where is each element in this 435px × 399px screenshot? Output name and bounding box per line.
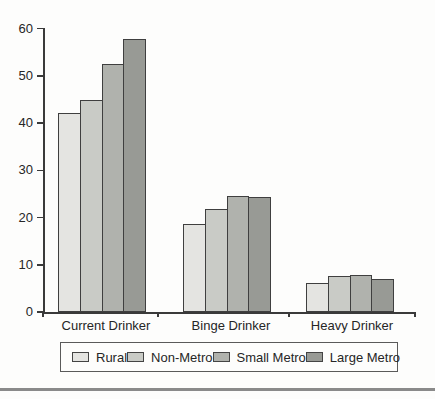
y-axis-line (43, 28, 45, 312)
category-label-current-drinker: Current Drinker (46, 318, 166, 333)
x-tick-mark (414, 312, 416, 317)
y-tick-mark (37, 264, 43, 266)
y-tick-mark (37, 122, 43, 124)
legend-item-non-metro: Non-Metro (127, 350, 212, 365)
legend-label: Large Metro (330, 350, 400, 365)
bar-rural-heavy-drinker (306, 283, 329, 312)
legend-swatch-icon (72, 352, 89, 362)
y-tick-mark (37, 28, 43, 30)
y-tick-label: 50 (3, 69, 33, 83)
bar-large-metro-binge-drinker (248, 197, 271, 312)
figure-page: 0102030405060 Current DrinkerBinge Drink… (0, 0, 435, 399)
legend-label: Non-Metro (151, 350, 212, 365)
bar-rural-current-drinker (58, 113, 81, 312)
grouped-bar-chart: 0102030405060 Current DrinkerBinge Drink… (0, 0, 435, 399)
y-tick-mark (37, 75, 43, 77)
y-tick-label: 40 (3, 116, 33, 130)
legend-swatch-icon (127, 352, 144, 362)
x-tick-mark (288, 312, 290, 317)
legend-box: RuralNon-MetroSmall MetroLarge Metro (60, 342, 398, 372)
x-axis-line (43, 312, 415, 314)
legend-swatch-icon (213, 352, 230, 362)
legend-label: Small Metro (237, 350, 306, 365)
y-tick-label: 20 (3, 211, 33, 225)
legend-item-large-metro: Large Metro (306, 350, 400, 365)
legend-swatch-icon (306, 352, 323, 362)
bar-small-metro-current-drinker (102, 64, 125, 312)
category-label-binge-drinker: Binge Drinker (171, 318, 291, 333)
category-label-heavy-drinker: Heavy Drinker (292, 318, 412, 333)
y-tick-label: 0 (3, 305, 33, 319)
y-tick-label: 10 (3, 258, 33, 272)
bar-rural-binge-drinker (183, 224, 206, 312)
legend-item-rural: Rural (72, 350, 127, 365)
y-tick-mark (37, 170, 43, 172)
bar-non-metro-binge-drinker (205, 209, 228, 312)
bar-non-metro-heavy-drinker (328, 276, 351, 312)
y-tick-label: 30 (3, 163, 33, 177)
legend-label: Rural (96, 350, 127, 365)
bar-large-metro-heavy-drinker (371, 279, 394, 312)
bar-small-metro-heavy-drinker (350, 275, 373, 312)
y-tick-label: 60 (3, 22, 33, 36)
bottom-page-rule (0, 388, 435, 391)
bar-non-metro-current-drinker (80, 100, 103, 312)
y-tick-mark (37, 217, 43, 219)
bar-small-metro-binge-drinker (227, 196, 250, 312)
legend-item-small-metro: Small Metro (213, 350, 306, 365)
bar-large-metro-current-drinker (123, 39, 146, 312)
x-tick-mark (42, 312, 44, 317)
x-tick-mark (157, 312, 159, 317)
